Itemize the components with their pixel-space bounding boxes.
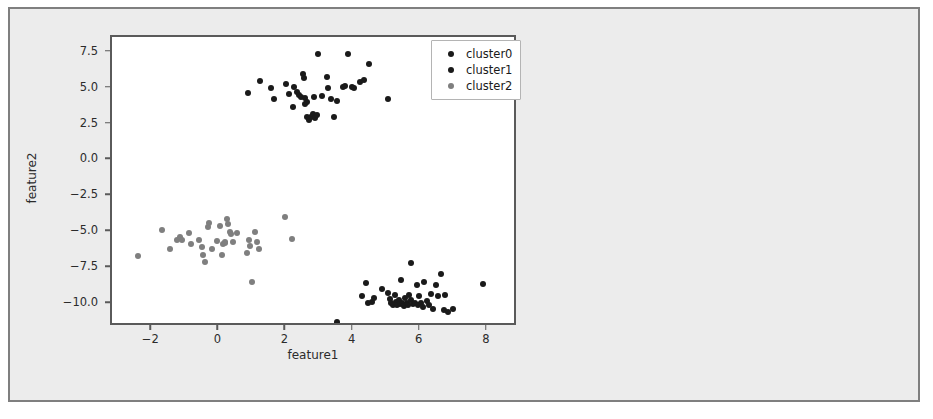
data-point [331,114,337,120]
data-point [433,282,439,288]
data-point [359,293,365,299]
data-point [363,280,369,286]
data-point [249,279,255,285]
x-tick-label: 0 [214,332,221,346]
data-point [315,51,321,57]
x-tick-mark [351,325,353,330]
y-axis-label: feature2 [25,148,39,208]
data-point [421,279,427,285]
y-tick-label: −7.5 [70,259,98,273]
data-point [282,214,288,220]
data-point [325,85,331,91]
y-tick-label: −2.5 [70,187,98,201]
data-point [301,75,307,81]
data-point [222,239,228,245]
x-tick-label: 8 [482,332,489,346]
data-point [206,220,212,226]
data-point [366,61,372,67]
data-point [188,241,194,247]
x-tick-mark [284,325,286,330]
data-point [167,246,173,252]
data-point [247,243,253,249]
x-tick-label: 2 [281,332,288,346]
data-point [254,239,260,245]
data-point [414,282,420,288]
data-point [311,94,317,100]
data-point [230,239,236,245]
data-point [159,227,165,233]
data-point [319,93,325,99]
data-point [289,236,295,242]
legend-marker-icon [438,67,464,73]
data-point [234,230,240,236]
y-tick-label: 2.5 [80,116,98,130]
y-tick-label: 7.5 [80,44,98,58]
data-point [135,253,141,259]
data-point [217,223,223,229]
data-point [179,237,185,243]
data-point [214,238,220,244]
data-point [345,51,351,57]
x-tick-mark [150,325,152,330]
y-tick-label: −10.0 [63,295,98,309]
data-point [351,85,357,91]
scatter-plot-screenshot: feature2 7.55.02.50.0−2.5−5.0−7.5−10.0 −… [0,0,933,419]
y-tick-label: −5.0 [70,223,98,237]
data-point [209,246,215,252]
data-point [257,78,263,84]
legend-item-label: cluster1 [464,63,512,77]
data-point [430,306,436,312]
data-point [271,96,277,102]
data-point [385,96,391,102]
legend-marker-icon [438,83,464,89]
data-point [334,319,340,323]
data-point [283,81,289,87]
data-point [480,281,486,287]
data-point [196,237,202,243]
data-point [225,221,231,227]
data-point [435,293,441,299]
data-point [416,293,422,299]
legend: cluster0cluster1cluster2 [431,40,521,100]
data-point [244,250,250,256]
data-point [450,306,456,312]
x-tick-mark [217,325,219,330]
x-tick-mark [418,325,420,330]
legend-marker-icon [438,51,464,57]
data-point [202,259,208,265]
x-tick-label: 4 [348,332,355,346]
data-point [342,83,348,89]
data-point [199,244,205,250]
legend-item-label: cluster0 [464,47,512,61]
legend-item-cluster2[interactable]: cluster2 [438,78,512,94]
data-point [438,271,444,277]
y-tick-label: 5.0 [80,80,98,94]
data-point [186,230,192,236]
x-tick-mark [485,325,487,330]
data-point [442,292,448,298]
data-point [200,252,206,258]
data-point [290,104,296,110]
data-point [398,277,404,283]
figure-frame: feature2 7.55.02.50.0−2.5−5.0−7.5−10.0 −… [8,7,920,402]
data-point [314,112,320,118]
legend-item-cluster1[interactable]: cluster1 [438,62,512,78]
x-tick-label: −2 [142,332,159,346]
data-point [252,229,258,235]
data-point [304,99,310,105]
data-point [408,260,414,266]
data-point [428,291,434,297]
legend-item-cluster0[interactable]: cluster0 [438,46,512,62]
data-point [256,246,262,252]
data-point [286,91,292,97]
data-point [334,98,340,104]
data-point [324,74,330,80]
legend-item-label: cluster2 [464,79,512,93]
data-point [361,77,367,83]
x-tick-label: 6 [415,332,422,346]
data-point [245,90,251,96]
x-axis-label: feature1 [110,348,516,362]
data-point [371,295,377,301]
data-point [219,252,225,258]
y-tick-label: 0.0 [80,151,98,165]
